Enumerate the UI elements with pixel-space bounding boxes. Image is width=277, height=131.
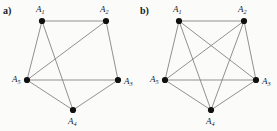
vertex-label-A5: A5 bbox=[11, 74, 21, 84]
edge-A2-A4 bbox=[211, 21, 244, 110]
figure-root: a) A1A2A3A4A5 b) A1A2A3A4A5 bbox=[0, 0, 277, 131]
graph-a-vertices: A1A2A3A4A5 bbox=[11, 4, 133, 126]
vertex-label-A4: A4 bbox=[205, 116, 215, 126]
graph-b-canvas: A1A2A3A4A5 bbox=[138, 0, 277, 131]
panel-a: a) A1A2A3A4A5 bbox=[0, 0, 139, 131]
edge-A1-A5 bbox=[27, 21, 42, 80]
graph-b-vertices: A1A2A3A4A5 bbox=[149, 4, 271, 126]
vertex-label-A3: A3 bbox=[261, 76, 271, 86]
edge-A2-A5 bbox=[27, 21, 106, 80]
vertex-label-A4: A4 bbox=[67, 116, 77, 126]
edge-A4-A5 bbox=[27, 80, 73, 110]
vertex-A1 bbox=[176, 18, 182, 24]
vertex-A4 bbox=[208, 107, 214, 113]
vertex-A5 bbox=[162, 77, 168, 83]
edge-A4-A5 bbox=[165, 80, 211, 110]
vertex-A2 bbox=[103, 18, 109, 24]
vertex-A4 bbox=[70, 107, 76, 113]
vertex-label-A5: A5 bbox=[149, 74, 159, 84]
edge-A2-A3 bbox=[106, 21, 118, 80]
edge-A3-A4 bbox=[73, 80, 118, 110]
vertex-A1 bbox=[39, 18, 45, 24]
vertex-A3 bbox=[253, 77, 259, 83]
graph-a-canvas: A1A2A3A4A5 bbox=[0, 0, 139, 131]
edge-A1-A3 bbox=[179, 21, 256, 80]
vertex-A3 bbox=[115, 77, 121, 83]
vertex-label-A2: A2 bbox=[237, 4, 247, 14]
vertex-A5 bbox=[24, 77, 30, 83]
vertex-label-A2: A2 bbox=[99, 4, 109, 14]
vertex-label-A3: A3 bbox=[123, 76, 133, 86]
panel-b: b) A1A2A3A4A5 bbox=[138, 0, 277, 131]
vertex-label-A1: A1 bbox=[35, 4, 45, 14]
vertex-label-A1: A1 bbox=[172, 4, 182, 14]
edge-A3-A4 bbox=[211, 80, 256, 110]
graph-a-edges bbox=[27, 21, 118, 110]
edge-A2-A3 bbox=[244, 21, 256, 80]
graph-b-edges bbox=[165, 21, 256, 110]
vertex-A2 bbox=[241, 18, 247, 24]
